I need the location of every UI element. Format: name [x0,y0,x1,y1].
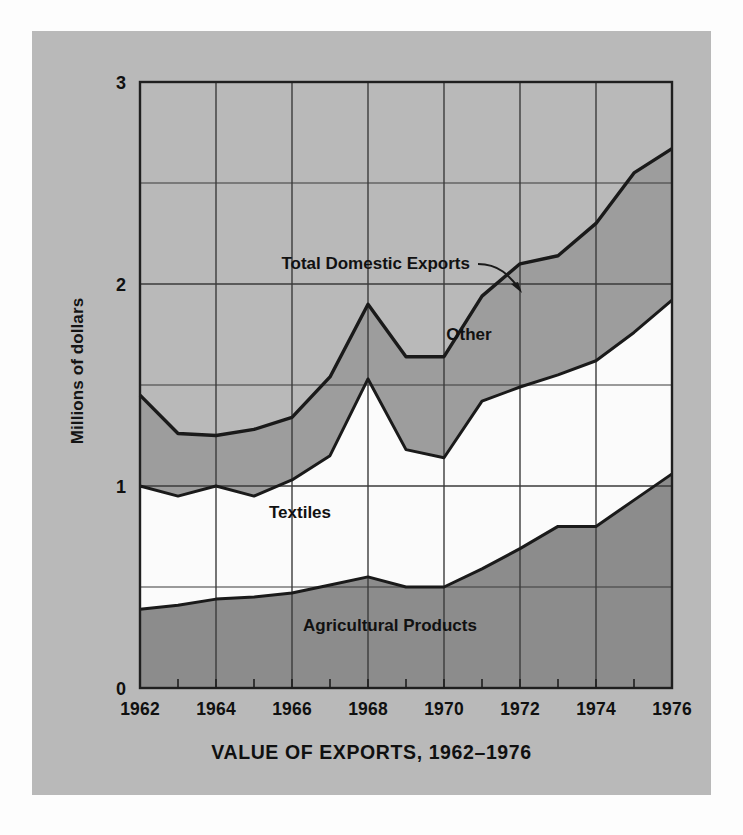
x-tick-label: 1974 [576,699,616,719]
y-tick-group: 0123 [116,73,126,699]
area-chart-svg: 0123 19621964196619681970197219741976 To… [32,31,711,795]
chart-panel: 0123 19621964196619681970197219741976 To… [32,31,711,795]
label-agricultural-products: Agricultural Products [303,616,477,635]
figure-root: 0123 19621964196619681970197219741976 To… [0,0,743,835]
plot-wrapper: 0123 19621964196619681970197219741976 To… [32,31,711,795]
label-total-domestic-exports: Total Domestic Exports [281,254,470,273]
y-tick-label: 2 [116,275,126,295]
label-textiles: Textiles [269,503,331,522]
x-tick-label: 1962 [120,699,160,719]
x-tick-label: 1966 [272,699,312,719]
label-other: Other [446,325,492,344]
x-tick-label: 1976 [652,699,692,719]
y-tick-label: 1 [116,477,126,497]
y-tick-label: 0 [116,679,126,699]
x-tick-label: 1964 [196,699,236,719]
chart-title: VALUE OF EXPORTS, 1962–1976 [32,741,711,764]
x-tick-label: 1970 [424,699,464,719]
y-tick-label: 3 [116,73,126,93]
x-tick-label: 1968 [348,699,388,719]
x-tick-label: 1972 [500,699,540,719]
